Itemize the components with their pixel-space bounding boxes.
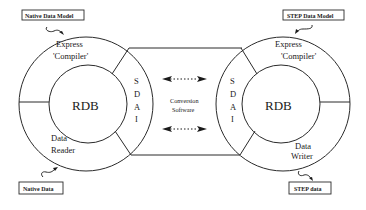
right-sdai-d: D (230, 89, 236, 99)
native-data-label: Native Data (23, 186, 54, 192)
right-sdai-a: A (230, 102, 237, 112)
left-express-line1: Express (56, 39, 83, 49)
bidirectional-arrow-bottom-icon (162, 126, 207, 132)
left-ring-divider-lower (115, 131, 131, 155)
data-conversion-diagram: Express 'Compiler' RDB Data Reader S D A… (0, 0, 366, 210)
step-data-callout: STEP data (289, 171, 331, 194)
right-data-writer-line2: Writer (291, 151, 313, 161)
right-ring-divider-lower (240, 131, 255, 155)
native-data-model-callout: Native Data Model (22, 10, 84, 35)
left-sdai-d: D (134, 89, 140, 99)
left-ring-divider-upper (112, 48, 129, 74)
conversion-software-line2: Software (172, 106, 195, 113)
right-ring-divider-upper (241, 48, 257, 74)
right-rdb-label: RDB (265, 98, 292, 113)
squiggle-connector-icon (42, 169, 55, 177)
squiggle-connector-icon (298, 171, 311, 179)
right-express-line2: 'Compiler' (281, 51, 317, 61)
native-data-callout: Native Data (19, 167, 63, 194)
right-sdai-s: S (230, 76, 235, 86)
left-sdai-i: I (135, 114, 138, 124)
right-express-line1: Express (275, 39, 302, 49)
right-data-writer-line1: Data (295, 141, 311, 151)
step-data-label: STEP data (294, 186, 322, 192)
left-system: Express 'Compiler' RDB Data Reader S D A… (19, 37, 153, 171)
bidirectional-arrow-top-icon (162, 76, 207, 82)
left-sdai-a: A (134, 102, 141, 112)
left-data-reader-line2: Reader (51, 145, 75, 155)
native-data-model-label: Native Data Model (25, 13, 74, 19)
left-rdb-label: RDB (72, 98, 99, 113)
left-express-line2: 'Compiler' (53, 51, 89, 61)
step-data-model-callout: STEP Data Model (283, 10, 344, 34)
step-data-model-label: STEP Data Model (287, 13, 334, 19)
left-sdai-s: S (134, 76, 139, 86)
left-data-reader-line1: Data (51, 133, 67, 143)
squiggle-connector-icon (297, 25, 312, 32)
conversion-software-line1: Conversion (170, 97, 199, 104)
right-sdai-i: I (231, 114, 234, 124)
right-system: Express 'Compiler' RDB Data Writer S D A… (216, 37, 350, 171)
